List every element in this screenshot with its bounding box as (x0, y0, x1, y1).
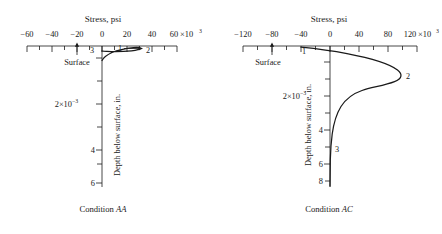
x-tick-label-0: −60 (20, 30, 33, 39)
curve-point-label-3: 3 (335, 145, 339, 154)
surface-label: Surface (255, 58, 281, 67)
y-tick-label-6: 6 (91, 179, 95, 188)
x-axis-title: Stress, psi (311, 14, 348, 24)
x-tick-label-2: −20 (70, 30, 83, 39)
x-tick-label-4: 40 (355, 30, 363, 39)
y-tick-label-2: 2×10 (283, 92, 300, 101)
chart-svg-ac: Stress, psi −120 −80 −40 0 40 80 120 ×10… (221, 0, 442, 234)
curve-point-label-1: 1 (118, 44, 122, 53)
x-tick-label-6: 60 (170, 30, 178, 39)
panel-caption-ac: Condition AC (305, 204, 353, 214)
y-axis-rule (324, 46, 330, 187)
x-tick-label-1: −80 (265, 30, 278, 39)
x-tick-label-1: −40 (45, 30, 58, 39)
y-tick-label-4: 4 (91, 146, 96, 155)
y-tick-label-8: 8 (319, 177, 323, 186)
caption-text: Condition (79, 204, 114, 214)
caption-condition-code: AA (115, 204, 127, 214)
x-axis-title: Stress, psi (85, 14, 122, 24)
y-tick-exponent: −3 (72, 98, 78, 104)
x-tick-label-3: 0 (100, 30, 104, 39)
caption-condition-code: AC (341, 204, 353, 214)
surface-label: Surface (64, 58, 90, 67)
x-axis-exponent-mult: ×10 (180, 30, 193, 39)
x-axis-exponent-mult: ×10 (418, 30, 431, 39)
curve-point-label-2: 2 (146, 46, 150, 55)
chart-svg-aa: Stress, psi −60 −40 −20 0 20 40 60 ×10 3… (0, 0, 221, 234)
x-tick-label-2: −40 (294, 30, 307, 39)
y-axis-title: Depth below surface, in. (113, 94, 122, 176)
panel-caption-aa: Condition AA (79, 204, 127, 214)
x-axis-exponent-power: 3 (436, 28, 439, 34)
chart-panel-condition-ac: Stress, psi −120 −80 −40 0 40 80 120 ×10… (221, 0, 442, 234)
curve-point-label-2: 2 (406, 72, 410, 81)
x-axis-exponent-power: 3 (199, 28, 202, 34)
caption-text: Condition (305, 204, 340, 214)
curve-point-label-3: 3 (90, 46, 94, 55)
y-axis-rule (96, 46, 102, 187)
y-tick-label-4: 4 (319, 126, 324, 135)
x-tick-label-3: 0 (328, 30, 332, 39)
x-tick-label-0: −120 (234, 30, 251, 39)
chart-panel-condition-aa: Stress, psi −60 −40 −20 0 20 40 60 ×10 3… (0, 0, 221, 234)
figure-container: Stress, psi −60 −40 −20 0 20 40 60 ×10 3… (0, 0, 442, 234)
x-tick-label-5: 80 (384, 30, 392, 39)
x-tick-label-6: 120 (404, 30, 417, 39)
curve-point-label-1: 1 (302, 47, 306, 56)
y-tick-label-2: 2×10 (55, 100, 72, 109)
stress-depth-curve-ac (301, 47, 401, 186)
x-tick-label-5: 40 (148, 30, 156, 39)
y-tick-label-6: 6 (319, 160, 323, 169)
y-axis-title: Depth below surface, in. (304, 84, 313, 166)
x-tick-label-4: 20 (123, 30, 131, 39)
